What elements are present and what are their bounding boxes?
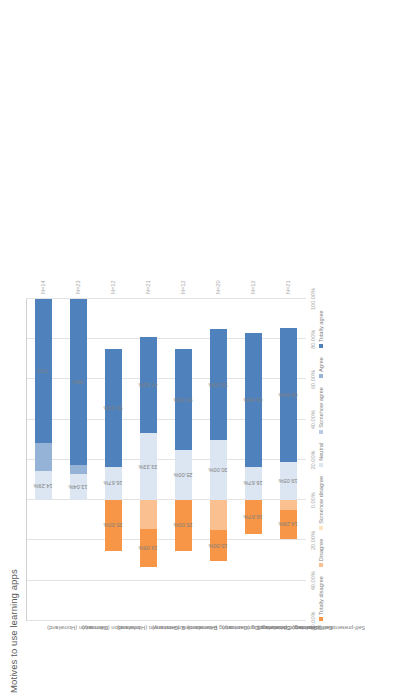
bar-segment: 15.00% [210, 530, 227, 560]
bar-value-label: 16.67% [244, 480, 263, 486]
legend-swatch-icon [319, 617, 323, 621]
bar-value-label: 15.00% [209, 543, 228, 549]
legend-item: Neutral [318, 443, 324, 467]
bar-value-label: 16.67% [104, 480, 123, 486]
legend-label: Agree [318, 357, 324, 372]
bar-group: 19.05%33.33%47.62% [140, 299, 157, 621]
legend-item: Totally disagree [318, 576, 324, 621]
legend-swatch-icon [319, 374, 323, 378]
bar-segment: 86% [70, 299, 87, 465]
legend-label: Somehow disagree [318, 476, 324, 524]
bar-group: 14.29%71% [35, 299, 52, 621]
bar-segment: 19.05% [140, 529, 157, 567]
bar-value-label: 16.67% [244, 514, 263, 520]
bar-segment: 13.04% [70, 474, 87, 500]
chart-motives-legend: Totally disagreeDisagreeSomehow disagree… [318, 310, 324, 621]
sample-size-label: N=20 [215, 280, 221, 294]
bar-segment: 14.29% [35, 472, 52, 501]
gridline [26, 580, 306, 581]
bar-segment: 58.33% [105, 349, 122, 466]
chart-usage-frequency: Using learning apps 18.52%11.11%7.41%11.… [0, 0, 401, 279]
bar-value-label: 58.33% [104, 405, 123, 411]
legend-label: Disagree [318, 539, 324, 561]
bar-value-label: 19.05% [279, 478, 298, 484]
legend-label: Totally agree [318, 310, 324, 342]
legend-swatch-icon [319, 430, 323, 434]
gridline [26, 540, 306, 541]
bar-value-label: 25.00% [174, 472, 193, 478]
bar-segment: 66.66% [245, 333, 262, 467]
bar-segment: 66.66% [280, 328, 297, 462]
legend-label: Totally disagree [318, 576, 324, 615]
sample-size-label: N=12 [250, 280, 256, 294]
legend-item: Agree [318, 357, 324, 378]
sample-size-label: N=14 [40, 280, 46, 294]
bar-segment: 19.05% [280, 462, 297, 500]
axis-line [26, 299, 27, 621]
bar-value-label: 71% [38, 368, 49, 374]
category-label: Self-presentation (Germany) [292, 625, 365, 631]
axis-tick-label: 0.00% [310, 492, 316, 508]
bar-segment: 55.00% [210, 329, 227, 440]
axis-tick-label: 20.00% [310, 531, 316, 550]
legend-item: Totally agree [318, 310, 324, 348]
sample-size-label: N=12 [180, 280, 186, 294]
legend-label: Neutral [318, 443, 324, 461]
bar-segment: 16.67% [245, 467, 262, 501]
axis-tick-label: 20.00% [310, 451, 316, 470]
bar-segment: 16.67% [245, 500, 262, 534]
chart-motives-title: Motives to use learning apps [8, 569, 19, 693]
axis-tick-label: 60.00% [310, 370, 316, 389]
bar-segment: 71% [35, 299, 52, 443]
bar-value-label: 14.29% [34, 483, 53, 489]
bar-value-label: 47.62% [139, 382, 158, 388]
bar-segment: 25.00% [105, 500, 122, 550]
bar-segment: 14.29% [280, 510, 297, 539]
axis-tick-label: 40.00% [310, 571, 316, 590]
bar-segment: 30.00% [210, 440, 227, 500]
bar-value-label: 25.00% [174, 522, 193, 528]
figure-page: Motives to use learning apps 14.29%71%13… [0, 0, 401, 699]
legend-item: Somehow disagree [318, 476, 324, 530]
bar-value-label: 33.33% [139, 464, 158, 470]
rotated-figure-frame: Motives to use learning apps 14.29%71%13… [0, 0, 401, 699]
bar-group: 15.00%30.00%55.00% [210, 299, 227, 621]
bar-group: 16.67%16.67%66.66% [245, 299, 262, 621]
bar-segment: 47.62% [140, 337, 157, 433]
bar-value-label: 50.00% [174, 397, 193, 403]
bar-segment: 25.00% [175, 450, 192, 500]
legend-item: Somehow agree [318, 387, 324, 434]
legend-label: Somehow agree [318, 387, 324, 428]
bar-segment: 25.00% [175, 500, 192, 550]
bar-group: 13.04%86% [70, 299, 87, 621]
chart-motives: Motives to use learning apps 14.29%71%13… [0, 279, 401, 699]
bar-value-label: 13.04% [69, 484, 88, 490]
legend-item: Disagree [318, 539, 324, 567]
bar-group: 25.00%25.00%50.00% [175, 299, 192, 621]
bar-segment: 50.00% [175, 349, 192, 450]
bar-segment: 33.33% [140, 433, 157, 500]
bar-segment: 16.67% [105, 467, 122, 501]
bar-value-label: 55.00% [209, 382, 228, 388]
bar-segment [280, 500, 297, 510]
bar-value-label: 25.00% [104, 522, 123, 528]
legend-swatch-icon [319, 463, 323, 467]
legend-swatch-icon [319, 526, 323, 530]
gridline [26, 620, 306, 621]
gridline [26, 298, 306, 299]
axis-tick-label: 80.00% [310, 330, 316, 349]
sample-size-label: N=12 [110, 280, 116, 294]
axis-tick-label: 40.00% [310, 410, 316, 429]
bar-segment [210, 500, 227, 530]
gridline [26, 419, 306, 420]
legend-swatch-icon [319, 344, 323, 348]
bar-segment [35, 443, 52, 472]
bar-value-label: 66.66% [244, 397, 263, 403]
bar-segment [140, 500, 157, 529]
chart-motives-plot: 14.29%71%13.04%86%25.00%16.67%58.33%19.0… [26, 299, 306, 621]
sample-size-label: N=21 [145, 280, 151, 294]
bar-value-label: 14.29% [279, 521, 298, 527]
bar-group: 14.29%19.05%66.66% [280, 299, 297, 621]
bar-segment [70, 465, 87, 474]
gridline [26, 379, 306, 380]
